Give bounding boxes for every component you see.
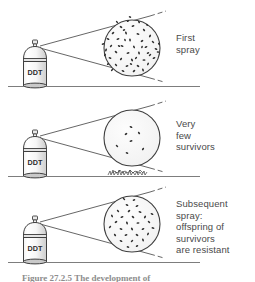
spray-cone-lower-dashed	[150, 168, 164, 172]
can-label: DDT	[28, 68, 43, 77]
ddt-resistance-figure: DDT	[0, 0, 255, 282]
spray-cone-lower-dashed	[150, 254, 164, 258]
panel-subsequent-spray: DDT	[8, 187, 200, 264]
magnified-circle	[104, 196, 160, 252]
magnified-circle	[104, 20, 160, 76]
panel-label-very-few-survivors: Very few survivors	[176, 118, 215, 153]
spray-cone-upper-dashed	[150, 11, 166, 16]
spray-cone-upper-dashed	[150, 101, 166, 106]
magnified-circle	[104, 110, 160, 166]
spray-can: DDT	[24, 40, 47, 88]
spray-cone-upper-dashed	[150, 187, 166, 192]
can-label: DDT	[28, 158, 43, 167]
spray-cone-lower-dashed	[150, 78, 164, 82]
spray-can: DDT	[24, 130, 47, 178]
panel-label-subsequent-spray: Subsequent spray: offspring of survivors…	[176, 198, 230, 256]
panel-label-first-spray: First spray	[176, 32, 200, 55]
can-label: DDT	[28, 244, 43, 253]
panel-very-few-survivors: DDT	[8, 101, 200, 178]
dead-insects-scribble	[108, 170, 147, 175]
spray-can: DDT	[24, 216, 47, 264]
figure-caption: Figure 27.2.5 The development of	[22, 273, 252, 282]
panel-first-spray: DDT	[8, 11, 200, 88]
